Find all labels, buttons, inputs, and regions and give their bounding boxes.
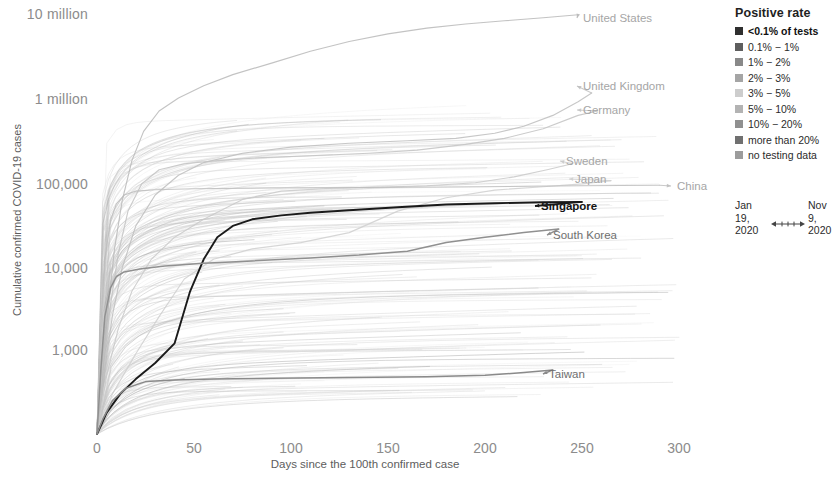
arrow-icon	[577, 13, 581, 18]
legend-item[interactable]: 0.1% − 1%	[735, 40, 840, 55]
date-range-legend: Jan 19, 2020 Nov 9, 2020	[735, 199, 840, 237]
series-label-sweden: Sweden	[566, 155, 608, 167]
date-range-end: Nov 9, 2020	[808, 199, 840, 237]
legend-item[interactable]: <0.1% of tests	[735, 24, 840, 39]
arrow-icon	[667, 184, 671, 188]
y-tick-label-1000: 1,000	[8, 342, 88, 358]
date-range-start-day: 19,	[735, 212, 767, 225]
legend-item[interactable]: 1% − 2%	[735, 55, 840, 70]
date-range-arrow-icon	[767, 207, 808, 229]
legend-item-label: no testing data	[748, 149, 817, 161]
x-tick-label-0: 0	[67, 440, 127, 456]
date-range-end-month: Nov	[808, 199, 840, 212]
x-tick-label-50: 50	[164, 440, 224, 456]
y-tick-label-10-million: 10 million	[8, 6, 88, 22]
legend-swatch-icon	[735, 43, 743, 51]
legend-swatch-icon	[735, 120, 743, 128]
series-label-united-states: United States	[583, 12, 652, 24]
series-label-south-korea: South Korea	[553, 229, 617, 241]
legend-swatch-icon	[735, 58, 743, 66]
legend-item[interactable]: 2% − 3%	[735, 71, 840, 86]
legend-item[interactable]: 10% − 20%	[735, 117, 840, 132]
legend-item-label: 1% − 2%	[748, 56, 790, 68]
series-label-taiwan: Taiwan	[549, 368, 585, 380]
legend: Positive rate <0.1% of tests0.1% − 1%1% …	[735, 6, 840, 164]
arrow-icon	[577, 108, 581, 112]
legend-swatch-icon	[735, 105, 743, 113]
x-tick-label-250: 250	[552, 440, 612, 456]
series-label-singapore: Singapore	[541, 200, 597, 212]
x-tick-label-100: 100	[261, 440, 321, 456]
chart-root: 10 million 1 million 100,000 10,000 1,00…	[0, 0, 840, 484]
legend-item[interactable]: more than 20%	[735, 133, 840, 148]
legend-item-label: 3% − 5%	[748, 87, 790, 99]
x-tick-label-300: 300	[649, 440, 709, 456]
date-range-end-day: 9,	[808, 212, 840, 225]
x-tick-label-150: 150	[358, 440, 418, 456]
legend-item-label: 10% − 20%	[748, 118, 802, 130]
arrow-icon	[535, 204, 539, 208]
legend-item[interactable]: 3% − 5%	[735, 86, 840, 101]
legend-item[interactable]: no testing data	[735, 148, 840, 163]
legend-item-label: 5% − 10%	[748, 103, 796, 115]
date-range-end-year: 2020	[808, 224, 840, 237]
legend-swatch-icon	[735, 136, 743, 144]
double-arrow-icon	[771, 219, 805, 229]
series-label-china: China	[677, 180, 707, 192]
legend-swatch-icon	[735, 74, 743, 82]
series-label-germany: Germany	[583, 104, 630, 116]
legend-item[interactable]: 5% − 10%	[735, 102, 840, 117]
line-chart-svg	[0, 0, 730, 484]
legend-swatch-icon	[735, 89, 743, 97]
legend-item-label: 0.1% − 1%	[748, 41, 799, 53]
x-axis-title: Days since the 100th confirmed case	[0, 458, 730, 470]
legend-items: <0.1% of tests0.1% − 1%1% − 2%2% − 3%3% …	[735, 24, 840, 163]
date-range-start-year: 2020	[735, 224, 767, 237]
y-axis-title: Cumulative confirmed COVID-19 cases	[11, 100, 23, 340]
legend-swatch-icon	[735, 27, 743, 35]
x-tick-label-200: 200	[455, 440, 515, 456]
series-label-japan: Japan	[575, 173, 606, 185]
series-label-united-kingdom: United Kingdom	[583, 80, 665, 92]
legend-swatch-icon	[735, 151, 743, 159]
legend-item-label: <0.1% of tests	[748, 25, 818, 37]
legend-item-label: 2% − 3%	[748, 72, 790, 84]
legend-item-label: more than 20%	[748, 134, 819, 146]
plot-area: 10 million 1 million 100,000 10,000 1,00…	[0, 0, 730, 484]
date-range-start-month: Jan	[735, 199, 767, 212]
legend-title: Positive rate	[735, 6, 840, 20]
date-range-start: Jan 19, 2020	[735, 199, 767, 237]
